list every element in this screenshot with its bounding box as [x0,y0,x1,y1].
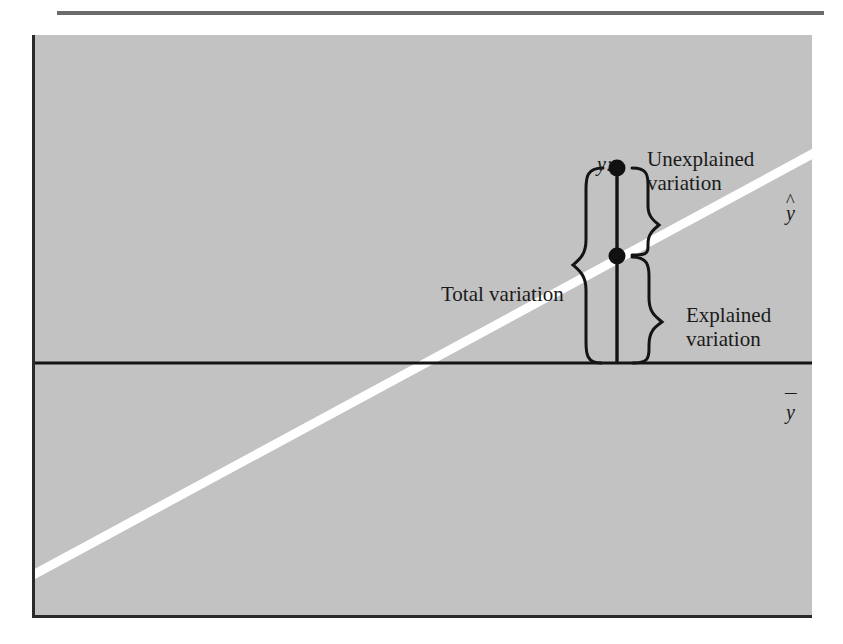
unexplained-variation-label: Unexplained variation [647,148,754,195]
explained-variation-label: Explained variation [686,304,771,351]
explained-variation-brace [632,257,662,363]
predicted-point [609,248,626,265]
regression-line-label: ^y [786,202,795,224]
total-variation-label: Total variation [441,283,564,307]
mean-line-label: y [786,401,795,423]
figure-panel: y: Unexplained variation Explained varia… [32,35,812,618]
mean-line-letter: y [786,401,795,423]
top-rule [57,11,824,15]
bar-accent-icon [785,393,796,395]
observed-point-label: y: [597,153,613,175]
hat-accent-icon: ^ [786,191,795,212]
